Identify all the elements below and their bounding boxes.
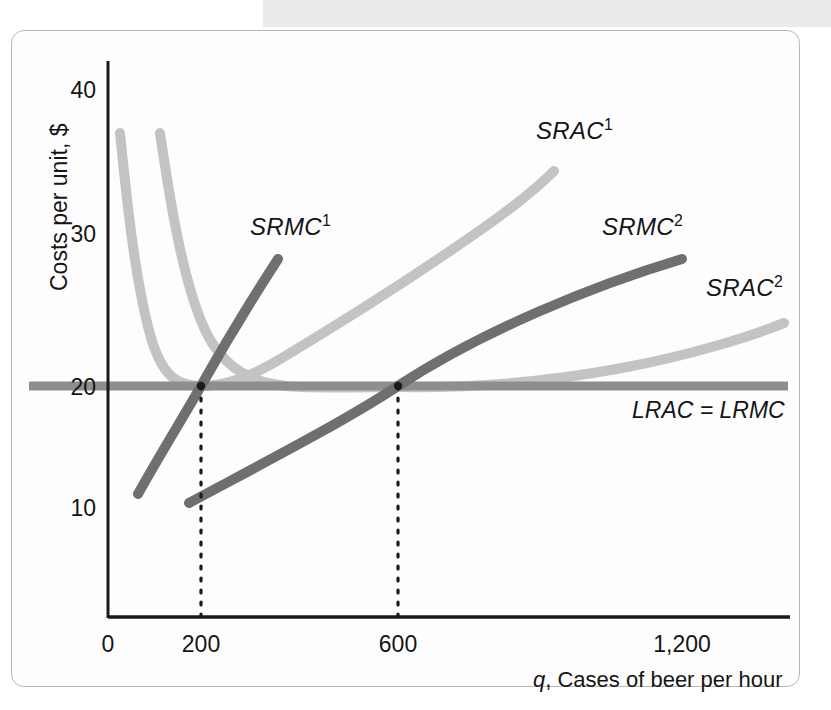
- curve-srac2: [160, 133, 784, 387]
- x-axis-title: q, Cases of beer per hour: [533, 667, 783, 693]
- figure-page: Costs per unit, $ 40 30 20 10 0 200 600 …: [0, 0, 831, 710]
- top-text-fragment: [430, 0, 830, 8]
- x-axis-title-variable: q: [533, 667, 545, 692]
- figure-frame: Costs per unit, $ 40 30 20 10 0 200 600 …: [11, 30, 800, 687]
- curve-label-srac1-text: SRAC: [536, 117, 604, 144]
- curve-label-srac2: SRAC2: [706, 274, 783, 302]
- x-axis-title-rest: , Cases of beer per hour: [545, 667, 782, 692]
- curve-label-srac1-sup: 1: [604, 116, 613, 133]
- curve-label-srmc1-sup: 1: [322, 212, 331, 229]
- tangency-point-1: [197, 382, 205, 390]
- y-tick-label-20: 20: [48, 374, 96, 401]
- y-tick-label-30: 30: [48, 221, 96, 248]
- y-axis-title: Costs per unit, $: [46, 124, 73, 291]
- curve-label-srac2-sup: 2: [774, 273, 783, 290]
- curve-label-srmc1-text: SRMC: [250, 213, 322, 240]
- curve-label-srmc2-text: SRMC: [602, 213, 674, 240]
- curve-label-srmc2-sup: 2: [674, 212, 683, 229]
- curve-label-lrac-lrmc: LRAC = LRMC: [632, 397, 785, 424]
- x-tick-label-600: 600: [370, 631, 426, 658]
- curve-label-srac2-text: SRAC: [706, 274, 774, 301]
- x-tick-label-1200: 1,200: [642, 631, 722, 658]
- curve-label-srmc2: SRMC2: [602, 213, 683, 241]
- cost-curves-plot: [12, 31, 801, 688]
- tangency-point-2: [394, 382, 402, 390]
- curve-label-srac1: SRAC1: [536, 117, 613, 145]
- x-tick-label-0: 0: [80, 631, 136, 658]
- scanned-page-band-left: [0, 0, 263, 16]
- y-tick-label-40: 40: [48, 77, 96, 104]
- curve-label-srmc1: SRMC1: [250, 213, 331, 241]
- x-tick-label-200: 200: [173, 631, 229, 658]
- y-tick-label-10: 10: [48, 495, 96, 522]
